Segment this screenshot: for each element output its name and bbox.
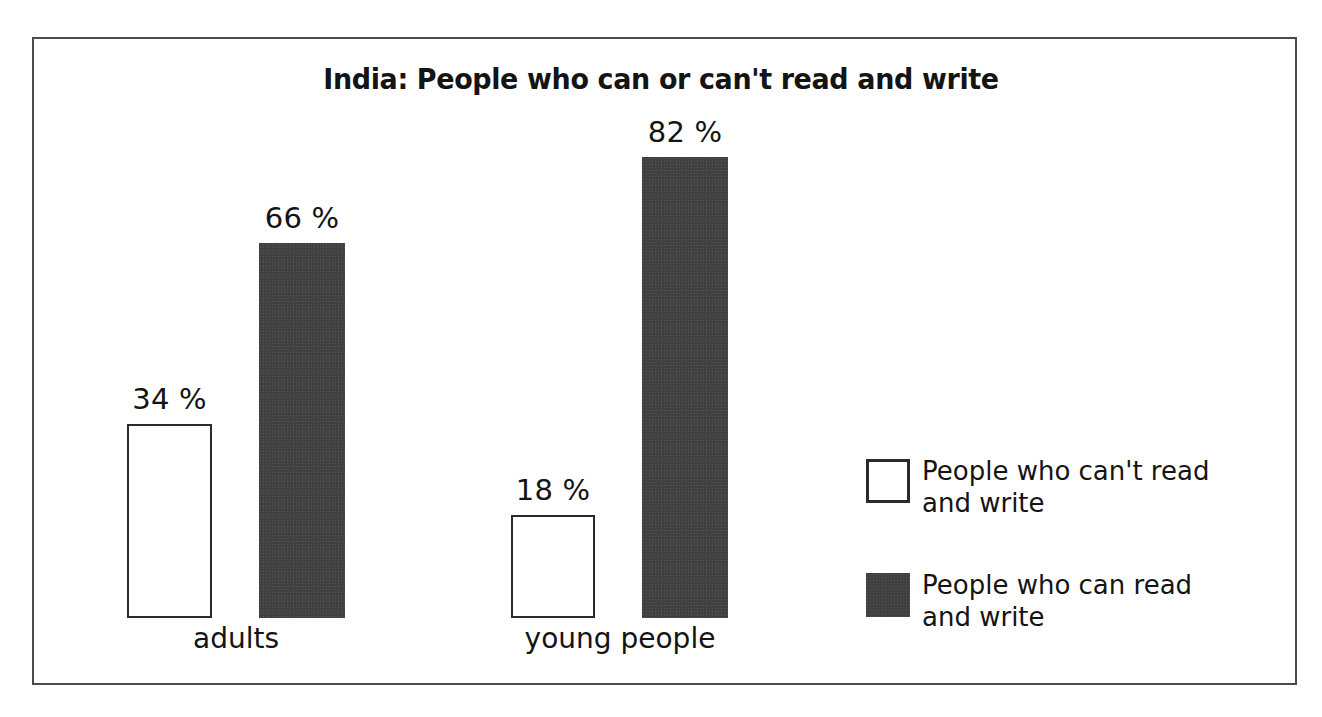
legend-label: People who can't readand write — [922, 455, 1209, 519]
bar-value-label: 18 % — [483, 473, 623, 507]
legend-item[interactable]: People who can't readand write — [866, 455, 1266, 519]
chart-canvas: India: People who can or can't read and … — [0, 0, 1322, 717]
category-label: adults — [86, 622, 386, 655]
chart-legend: People who can't readand writePeople who… — [866, 455, 1266, 683]
bar-value-label: 66 % — [232, 201, 372, 235]
bar-value-label: 34 % — [100, 382, 240, 416]
category-label: young people — [470, 622, 770, 655]
bar-adults-dark — [259, 243, 345, 618]
legend-swatch-dark — [866, 573, 910, 617]
bar-young-people-light — [511, 515, 595, 618]
legend-item[interactable]: People who can readand write — [866, 569, 1266, 633]
bar-adults-light — [127, 424, 212, 618]
bar-young-people-dark — [642, 157, 728, 618]
bar-value-label: 82 % — [615, 115, 755, 149]
legend-label: People who can readand write — [922, 569, 1192, 633]
legend-swatch-light — [866, 459, 910, 503]
